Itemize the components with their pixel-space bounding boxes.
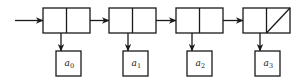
element-label-subscript: 1 [137, 62, 141, 70]
element-label-subscript: 0 [70, 62, 74, 70]
element-label-subscript: 3 [269, 62, 273, 70]
element-label-subscript: 2 [201, 62, 205, 70]
linked-list-diagram: a0a1a2a3 [0, 0, 306, 83]
